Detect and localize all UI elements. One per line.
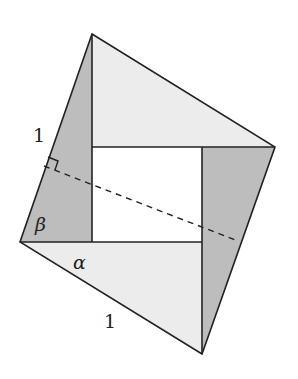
diagram-canvas: 1 β α 1	[0, 0, 298, 379]
label-side-bottom: 1	[104, 310, 116, 332]
inner-rectangle	[92, 147, 202, 242]
label-alpha: α	[73, 251, 86, 273]
label-beta: β	[34, 213, 46, 235]
label-side-left: 1	[33, 124, 45, 146]
